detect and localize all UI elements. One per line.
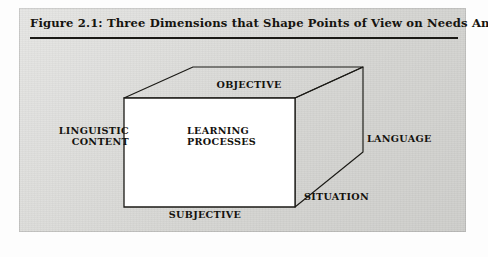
figure-caption: Figure 2.1: Three Dimensions that Shape … xyxy=(30,16,460,30)
cube-label-learning-processes: LEARNING PROCESSES xyxy=(187,126,283,147)
cube-label-linguistic-content: LINGUISTIC CONTENT xyxy=(33,126,129,147)
cube-label-objective: OBJECTIVE xyxy=(189,80,309,91)
cube-label-subjective: SUBJECTIVE xyxy=(145,210,265,221)
scanned-page: Figure 2.1: Three Dimensions that Shape … xyxy=(0,0,488,257)
cube-label-situation: SITUATION xyxy=(304,192,400,203)
caption-divider xyxy=(30,37,458,39)
cube-label-language: LANGUAGE xyxy=(367,134,457,145)
cube-front-face xyxy=(124,98,295,207)
figure-panel: Figure 2.1: Three Dimensions that Shape … xyxy=(19,8,466,232)
